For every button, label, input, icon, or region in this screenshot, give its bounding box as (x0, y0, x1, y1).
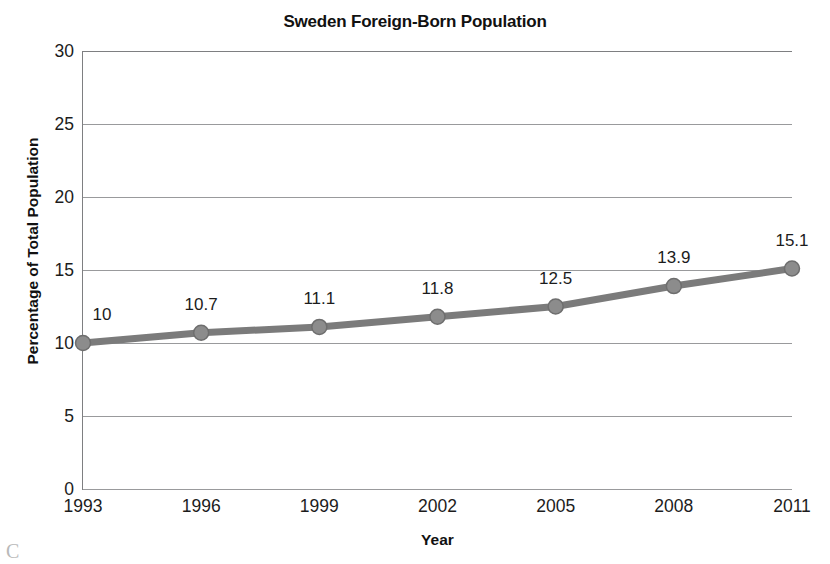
data-point-2002 (430, 309, 445, 324)
line-series-layer (0, 0, 830, 564)
chart-figure: Sweden Foreign-Born Population Percentag… (0, 0, 830, 564)
data-point-1999 (312, 319, 327, 334)
data-point-1993 (76, 336, 91, 351)
data-point-2008 (666, 279, 681, 294)
series-line (83, 269, 792, 343)
data-point-2011 (785, 261, 800, 276)
scan-artifact-glyph: C (6, 541, 19, 561)
data-point-1996 (194, 325, 209, 340)
data-point-2005 (548, 299, 563, 314)
